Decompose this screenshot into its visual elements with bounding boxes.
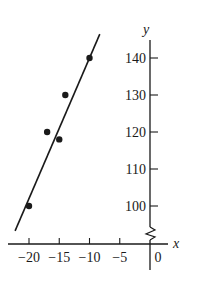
x-tick-label: −20: [18, 250, 40, 265]
y-tick-label: 100: [125, 199, 146, 214]
data-point: [56, 136, 62, 142]
y-tick-label: 110: [126, 162, 146, 177]
data-point: [26, 203, 32, 209]
data-point: [44, 129, 50, 135]
scatter-chart: −20−15−10−50100110120130140 x y: [0, 0, 197, 286]
axes: [8, 40, 168, 270]
fit-line: [15, 34, 100, 231]
x-axis-label: x: [172, 236, 180, 251]
x-tick-label: −15: [48, 250, 70, 265]
fit-line-layer: [15, 34, 100, 231]
x-tick-label: −10: [79, 250, 101, 265]
ticks: −20−15−10−50100110120130140: [18, 51, 161, 265]
points-layer: [26, 55, 93, 209]
data-point: [62, 92, 68, 98]
x-tick-label: −5: [112, 250, 127, 265]
data-point: [86, 55, 92, 61]
y-tick-label: 120: [125, 125, 146, 140]
y-axis-label: y: [141, 22, 150, 37]
y-axis-break: [146, 227, 155, 240]
y-tick-label: 140: [125, 51, 146, 66]
x-tick-label: 0: [155, 250, 162, 265]
y-tick-label: 130: [125, 88, 146, 103]
